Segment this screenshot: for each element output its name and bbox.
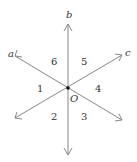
region-6: 6: [51, 56, 57, 67]
origin-point: [66, 86, 70, 90]
label-b: b: [66, 9, 72, 20]
label-c: c: [125, 47, 131, 58]
arrow-a-top-icon: [15, 50, 22, 57]
region-5: 5: [81, 56, 87, 67]
region-3: 3: [81, 111, 87, 122]
label-a: a: [8, 48, 14, 59]
region-4: 4: [95, 83, 101, 94]
region-1: 1: [37, 83, 43, 94]
region-2: 2: [51, 111, 57, 122]
label-origin: O: [70, 93, 78, 104]
lines-diagram: b a c O 1 2 3 4 5 6: [0, 0, 137, 162]
